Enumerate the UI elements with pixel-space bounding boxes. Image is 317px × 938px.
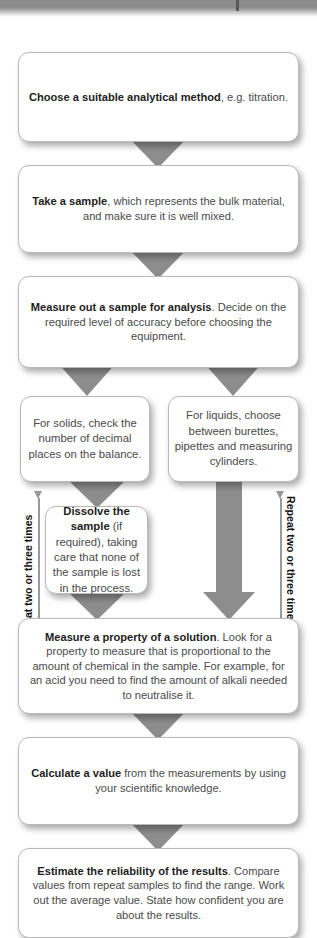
flow-box-solids-branch: For solids, check the number of decimal … — [20, 396, 150, 482]
flow-box-liquids-branch-text: For liquids, choose between burettes, pi… — [169, 408, 298, 470]
flow-box-choose-method: Choose a suitable analytical method, e.g… — [18, 52, 299, 142]
flow-box-measure-property-text: Measure a property of a solution. Look f… — [19, 630, 298, 703]
flow-box-take-sample-bold: Take a sample — [32, 195, 107, 207]
flow-box-take-sample: Take a sample, which represents the bulk… — [18, 165, 299, 253]
flow-box-choose-method-rest: , e.g. titration. — [221, 91, 288, 103]
page-edge-nick — [236, 0, 239, 11]
flow-box-measure-out-sample: Measure out a sample for analysis. Decid… — [18, 276, 299, 368]
flow-box-estimate-reliability-bold: Estimate the reliability of the results — [37, 865, 228, 877]
flow-box-calculate-value-bold: Calculate a value — [31, 767, 121, 779]
flow-box-choose-method-text: Choose a suitable analytical method, e.g… — [20, 90, 297, 105]
arrow-liquids-shaft — [216, 478, 242, 596]
flow-box-dissolve-sample: Dissolve the sample (if required), takin… — [45, 506, 148, 594]
flow-box-calculate-value-text: Calculate a value from the measurements … — [19, 766, 298, 795]
repeat-loop-arrowhead-right — [276, 491, 284, 499]
flow-box-calculate-value: Calculate a value from the measurements … — [18, 737, 299, 825]
flow-box-measure-property: Measure a property of a solution. Look f… — [18, 618, 299, 714]
flow-box-calculate-value-rest: from the measurements by using your scie… — [95, 767, 286, 794]
flow-box-liquids-branch: For liquids, choose between burettes, pi… — [168, 396, 299, 482]
repeat-loop-arrowhead-left — [34, 491, 42, 499]
arrow-liquids-head — [203, 592, 255, 620]
flow-box-measure-out-sample-text: Measure out a sample for analysis. Decid… — [19, 300, 298, 344]
flow-box-choose-method-bold: Choose a suitable analytical method — [29, 91, 221, 103]
flow-box-dissolve-sample-text: Dissolve the sample (if required), takin… — [46, 504, 147, 596]
flow-box-take-sample-text: Take a sample, which represents the bulk… — [19, 194, 298, 223]
flow-box-solids-branch-text: For solids, check the number of decimal … — [21, 416, 149, 462]
flow-box-measure-property-bold: Measure a property of a solution — [45, 631, 216, 643]
flow-box-take-sample-rest: , which represents the bulk material, an… — [83, 195, 285, 222]
flow-box-estimate-reliability-text: Estimate the reliability of the results.… — [19, 864, 298, 922]
page-scan-edge — [0, 0, 317, 17]
flow-box-estimate-reliability: Estimate the reliability of the results.… — [18, 848, 299, 938]
flow-box-measure-out-sample-bold: Measure out a sample for analysis — [31, 301, 212, 313]
